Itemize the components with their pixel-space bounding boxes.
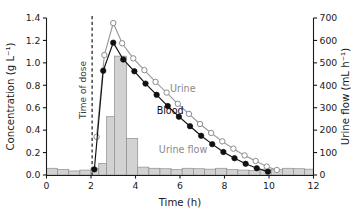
- blood-data-point: [111, 40, 116, 45]
- left-y-tick-label: 0.8: [26, 80, 41, 91]
- urine-flow-bar: [160, 169, 171, 175]
- right-y-tick-label: 400: [320, 80, 338, 91]
- urine-flow-bar: [293, 169, 304, 175]
- blood-data-point: [187, 124, 192, 129]
- right-y-tick-label: 0: [320, 169, 326, 180]
- chart-svg: 0.00.20.40.60.81.01.21.4 010020030040050…: [0, 0, 362, 214]
- blood-data-point: [143, 81, 148, 86]
- left-y-tick-label: 1.0: [26, 57, 41, 68]
- blood-data-point: [221, 149, 226, 154]
- x-tick-label: 10: [263, 180, 275, 191]
- urine-data-point: [142, 67, 147, 72]
- x-tick-label: 2: [88, 180, 94, 191]
- urine-data-point: [264, 164, 269, 169]
- urine-data-point: [274, 167, 279, 172]
- urine-data-point: [153, 79, 158, 84]
- left-y-tick-label: 0.0: [26, 169, 41, 180]
- blood-data-point: [154, 92, 159, 97]
- urine-blood-concentration-chart: 0.00.20.40.60.81.01.21.4 010020030040050…: [0, 0, 362, 214]
- urine-data-point: [231, 146, 236, 151]
- urine-data-point: [242, 153, 247, 158]
- urine-data-point: [102, 52, 107, 57]
- urine-data-point: [164, 90, 169, 95]
- urine-data-point: [131, 56, 136, 61]
- right-y-tick-label: 700: [320, 12, 338, 23]
- urine-flow-bar: [58, 169, 69, 175]
- urine-flow-bar: [282, 168, 293, 175]
- blood-data-point: [210, 141, 215, 146]
- urine-flow-bar: [193, 169, 204, 175]
- secondary-y-axis-title: Urine flow (mL h⁻¹): [340, 48, 351, 145]
- urine-data-point: [197, 121, 202, 126]
- urine-data-point: [119, 41, 124, 46]
- urine-flow-bar: [107, 117, 115, 175]
- blood-data-point: [232, 155, 237, 160]
- urine-flow-bar: [249, 171, 260, 175]
- blood-data-point: [121, 57, 126, 62]
- urine-series-label: Urine: [170, 83, 196, 94]
- blood-data-point: [101, 68, 106, 73]
- left-y-tick-label: 1.4: [26, 12, 41, 23]
- x-tick-label: 12: [308, 180, 320, 191]
- blood-data-point: [243, 161, 248, 166]
- urine-data-point: [186, 111, 191, 116]
- x-tick-label: 0: [44, 180, 50, 191]
- time-of-dose-label: Time of dose: [78, 61, 88, 120]
- left-y-tick-label: 1.2: [26, 35, 41, 46]
- urine-data-point: [208, 130, 213, 135]
- urine-flow-bar: [305, 169, 314, 175]
- blood-series-label: Blood: [157, 105, 184, 116]
- urine-flow-bar: [80, 170, 91, 175]
- urine-flow-series-label: Urine flow: [159, 144, 208, 155]
- urine-data-point: [220, 139, 225, 144]
- urine-data-point: [253, 158, 258, 163]
- x-tick-label: 4: [133, 180, 139, 191]
- left-y-tick-label: 0.6: [26, 102, 41, 113]
- urine-flow-bar: [182, 168, 193, 175]
- left-y-tick-label: 0.4: [26, 124, 41, 135]
- urine-flow-bar: [99, 163, 107, 175]
- urine-flow-bar: [114, 56, 126, 175]
- urine-flow-bar: [238, 170, 249, 175]
- urine-flow-bar: [149, 168, 160, 175]
- urine-data-point: [111, 20, 116, 25]
- urine-flow-bar: [204, 169, 215, 175]
- urine-flow-bar: [47, 168, 58, 175]
- right-y-tick-label: 100: [320, 147, 338, 158]
- blood-data-point: [92, 167, 97, 172]
- x-tick-label: 6: [177, 180, 183, 191]
- urine-flow-bar: [69, 171, 80, 175]
- blood-data-point: [132, 69, 137, 74]
- blood-data-point: [265, 169, 270, 174]
- right-y-tick-label: 200: [320, 124, 338, 135]
- urine-flow-bar: [227, 170, 238, 175]
- right-y-tick-label: 300: [320, 102, 338, 113]
- y-axis-title: Concentration (g L⁻¹): [5, 42, 16, 150]
- blood-data-point: [198, 133, 203, 138]
- urine-flow-bar: [138, 167, 149, 175]
- right-y-tick-label: 600: [320, 35, 338, 46]
- urine-flow-bar: [216, 168, 227, 175]
- urine-flow-bar: [127, 138, 138, 175]
- left-y-tick-label: 0.2: [26, 147, 41, 158]
- blood-data-point: [254, 166, 259, 171]
- x-axis-title: Time (h): [158, 197, 202, 208]
- right-y-tick-label: 500: [320, 57, 338, 68]
- x-tick-label: 8: [222, 180, 228, 191]
- urine-flow-bar: [171, 170, 182, 175]
